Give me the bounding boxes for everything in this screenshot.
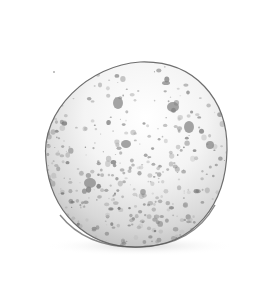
stray-pencil-mark — [53, 71, 55, 73]
egg-spot — [184, 121, 194, 133]
egg-spot — [167, 102, 179, 112]
egg-drawing: Pencil drawing of a speckled egg — [0, 0, 253, 301]
egg-spot — [84, 178, 96, 188]
egg-spot — [162, 81, 170, 85]
egg-spot — [206, 141, 214, 149]
egg-spot — [121, 140, 131, 148]
egg-illustration — [0, 0, 253, 301]
egg-spot — [113, 97, 123, 109]
